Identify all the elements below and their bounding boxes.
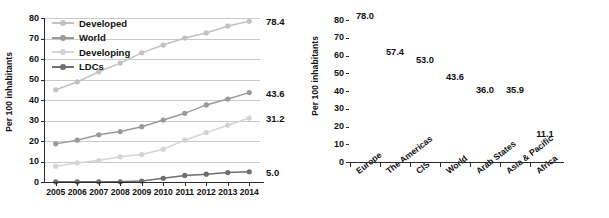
data-point [139,124,144,129]
data-point [204,30,209,35]
legend-item-developed[interactable]: Developed [52,16,130,31]
legend-label: World [79,33,106,43]
x-tick-label: 2012 [197,187,216,197]
x-tick-mark [530,163,531,167]
data-point [53,164,58,169]
data-point [161,42,166,47]
line-chart-legend: DevelopedWorldDevelopingLDCs [52,16,130,74]
y-tick-label: 60 [326,51,344,60]
data-point [204,172,209,177]
y-tick-mark [346,127,349,128]
x-tick-mark [77,183,78,186]
bar-value-label: 78.0 [356,11,374,21]
data-point [161,147,166,152]
x-tick-mark [206,183,207,186]
y-tick-mark [346,73,349,74]
x-tick-mark [228,183,229,186]
data-point [247,90,252,95]
data-point [75,138,80,143]
bar-category-label: Africa [534,153,559,176]
data-point [225,23,230,28]
data-point [96,158,101,163]
x-tick-label: 2014 [240,187,259,197]
x-tick-mark [410,163,411,167]
series-end-label: 31.2 [266,113,285,124]
x-tick-label: 2008 [111,187,130,197]
data-point [182,35,187,40]
data-point [118,154,123,159]
y-tick-mark [346,144,349,145]
y-tick-label: 70 [326,33,344,42]
bar-chart: Per 100 inhabitants 01020304050607080 78… [305,0,609,218]
x-tick-mark [120,183,121,186]
data-point [96,132,101,137]
x-tick-mark [249,183,250,186]
y-tick-mark [346,56,349,57]
data-point [182,111,187,116]
y-tick-mark [346,91,349,92]
bar-value-label: 57.4 [386,47,404,57]
bar-category-label: World [444,153,469,176]
legend-swatch-icon [52,37,74,39]
x-tick-label: 2005 [46,187,65,197]
series-end-label: 5.0 [266,167,279,178]
data-point [75,160,80,165]
bar-value-label: 36.0 [476,85,494,95]
y-tick-mark [346,109,349,110]
data-point [247,169,252,174]
x-tick-mark [142,183,143,186]
x-axis-line [346,162,564,163]
y-tick-label: 80 [326,16,344,25]
line-chart: Per 100 inhabitants 01020304050607080 20… [0,0,305,218]
y-tick-label: 0 [21,178,39,187]
series-line-2 [56,118,250,166]
x-tick-mark [185,183,186,186]
series-end-label: 43.6 [266,88,285,99]
y-tick-mark [346,38,349,39]
legend-item-world[interactable]: World [52,31,130,46]
x-tick-label: 2009 [132,187,151,197]
x-axis-line [41,182,264,183]
data-point [139,152,144,157]
legend-item-ldcs[interactable]: LDCs [52,60,130,75]
data-point [161,176,166,181]
x-tick-mark [56,183,57,186]
data-point [161,117,166,122]
y-tick-label: 30 [21,116,39,125]
x-tick-mark [163,183,164,186]
figure-container: Per 100 inhabitants 01020304050607080 20… [0,0,609,218]
x-tick-mark [380,163,381,167]
legend-swatch-icon [52,22,74,24]
bar-value-label: 53.0 [416,55,434,65]
data-point [247,115,252,120]
legend-marker-icon [60,35,66,41]
y-tick-label: 80 [21,14,39,23]
series-line-1 [56,93,250,144]
y-tick-mark [346,20,349,21]
x-tick-mark [350,163,351,167]
series-line-3 [56,172,250,182]
x-tick-label: 2007 [89,187,108,197]
data-point [118,129,123,134]
x-tick-mark [500,163,501,167]
data-point [139,50,144,55]
y-tick-label: 20 [326,122,344,131]
data-point [247,19,252,24]
legend-label: Developed [79,19,127,29]
y-tick-label: 50 [21,75,39,84]
bar-value-label: 43.6 [446,72,464,82]
x-tick-label: 2011 [175,187,194,197]
data-point [225,123,230,128]
x-tick-mark [99,183,100,186]
legend-marker-icon [60,49,66,55]
legend-marker-icon [60,64,66,70]
legend-swatch-icon [52,66,74,68]
y-tick-label: 70 [21,34,39,43]
legend-item-developing[interactable]: Developing [52,45,130,60]
data-point [182,138,187,143]
y-tick-label: 40 [326,87,344,96]
line-chart-y-axis-label: Per 100 inhabitants [4,52,14,132]
data-point [225,96,230,101]
data-point [225,170,230,175]
legend-label: Developing [79,48,130,58]
